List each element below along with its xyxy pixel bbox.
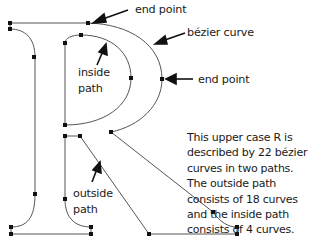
label-end-point-right: end point [198, 73, 249, 86]
label-bezier-curve: bézier curve [187, 26, 254, 39]
label-inside-path-line2: path [78, 82, 103, 95]
description-text: This upper case R is described by 22 béz… [187, 130, 311, 238]
inside-path [65, 35, 131, 125]
label-inside-path-line1: inside [78, 66, 110, 79]
label-outside-path-line2: path [73, 203, 98, 216]
label-end-point-top: end point [135, 3, 186, 16]
inside-path-points [63, 33, 133, 127]
label-outside-path-line1: outside [73, 187, 113, 200]
